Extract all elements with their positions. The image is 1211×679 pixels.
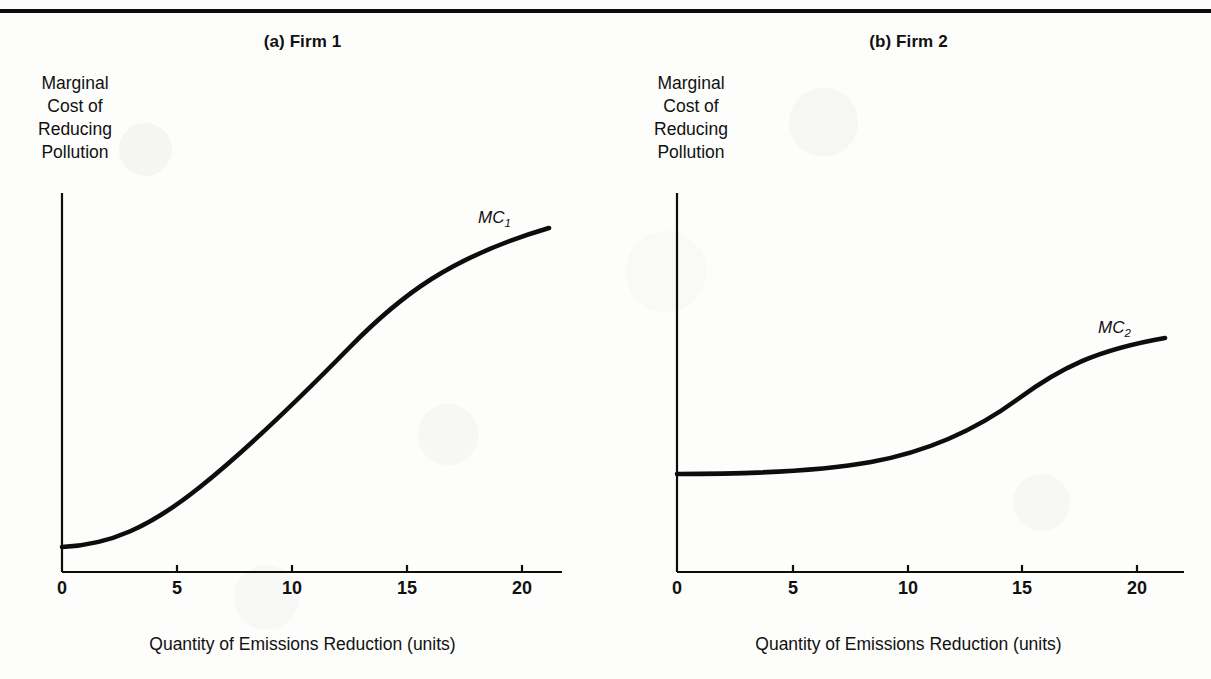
panel-a-mc1-curve	[62, 228, 549, 547]
panel-a-xtick-label-15: 15	[387, 578, 427, 599]
panel-b-xtick-label-15: 15	[1002, 578, 1042, 599]
mc-label-subscript: 1	[504, 217, 510, 229]
panel-firm-1: (a) Firm 1 Marginal Cost of Reducing Pol…	[0, 0, 605, 679]
mc-label-text: MC	[1098, 318, 1124, 337]
panel-b-xtick-label-10: 10	[888, 578, 928, 599]
panel-a-xtick-label-5: 5	[157, 578, 197, 599]
panel-b-x-axis-title: Quantity of Emissions Reduction (units)	[606, 634, 1211, 655]
panel-a-xtick-label-0: 0	[42, 578, 82, 599]
panel-b-mc2-curve	[677, 338, 1165, 474]
panel-a-xtick-label-10: 10	[272, 578, 312, 599]
panel-a-x-axis-title: Quantity of Emissions Reduction (units)	[0, 634, 605, 655]
panel-b-xtick-label-5: 5	[773, 578, 813, 599]
mc-label-subscript: 2	[1124, 327, 1130, 339]
mc-label-text: MC	[478, 208, 504, 227]
panel-b-mc2-label: MC2	[1098, 318, 1131, 339]
panel-a-mc1-label: MC1	[478, 208, 511, 229]
panel-b-xtick-label-0: 0	[657, 578, 697, 599]
panel-b-xtick-label-20: 20	[1117, 578, 1157, 599]
panel-firm-2: (b) Firm 2 Marginal Cost of Reducing Pol…	[606, 0, 1211, 679]
panel-a-xtick-label-20: 20	[502, 578, 542, 599]
